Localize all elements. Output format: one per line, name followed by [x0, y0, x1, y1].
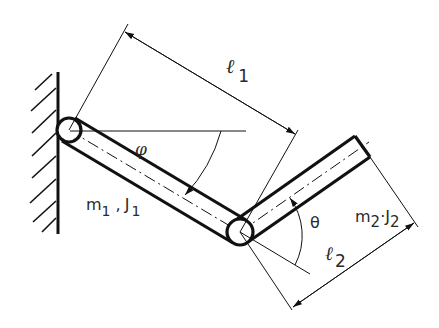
fixed-wall [30, 72, 58, 234]
l1-label: ℓ1 [226, 54, 249, 86]
phi-label: φ [135, 139, 147, 159]
pendulum-diagram: ℓ1 φ m1 ,J1 θ m2·J2 ℓ2 [0, 0, 439, 328]
m1-j1-label: m1 ,J1 [86, 195, 140, 219]
link-1 [62, 118, 246, 243]
l2-dimension [240, 157, 418, 310]
l2-label: ℓ2 [325, 242, 346, 271]
m2-j2-label: m2·J2 [355, 207, 400, 231]
theta-label: θ [310, 213, 320, 232]
